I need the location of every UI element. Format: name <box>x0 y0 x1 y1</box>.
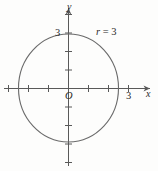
y-axis-label: y <box>67 2 71 12</box>
equation-rest: = 3 <box>100 26 116 37</box>
x-axis-label: x <box>146 89 150 99</box>
x-tick-label-3: 3 <box>126 91 131 102</box>
plot-canvas <box>0 0 158 171</box>
origin-label: O <box>65 91 73 102</box>
equation-label: r = 3 <box>96 27 117 38</box>
polar-plot-figure: y x O 3 3 r = 3 <box>0 0 158 171</box>
y-tick-label-3: 3 <box>55 28 60 39</box>
